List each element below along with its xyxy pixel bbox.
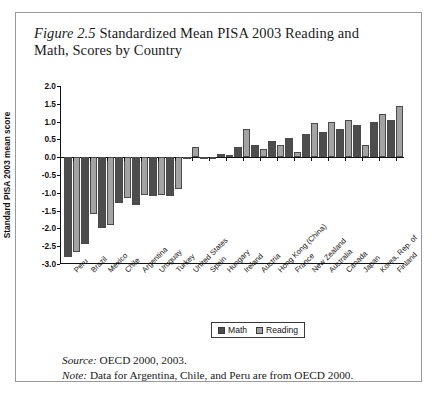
bar-group <box>166 86 183 264</box>
bar-group <box>115 86 132 264</box>
bar-reading <box>158 157 166 194</box>
x-tick-mark <box>345 157 346 161</box>
y-tick-label: -3.0 <box>42 259 56 269</box>
y-tick-label: -1.5 <box>42 206 56 216</box>
legend-item-math: Math <box>218 325 247 335</box>
bar-reading <box>141 157 149 194</box>
bar-math <box>336 129 344 157</box>
bar-math <box>81 157 89 244</box>
bar-group <box>132 86 149 264</box>
bar-reading <box>362 145 370 157</box>
y-tick-mark <box>57 139 61 140</box>
y-tick-mark <box>57 157 61 158</box>
y-tick-label: -1.0 <box>42 188 56 198</box>
x-tick-mark <box>379 157 380 161</box>
y-tick-label: 0.0 <box>44 152 56 162</box>
x-tick-mark <box>294 157 295 161</box>
y-tick-label: -0.5 <box>42 170 56 180</box>
bar-math <box>132 157 140 205</box>
figure-number: Figure 2.5 <box>34 25 96 41</box>
x-tick-mark <box>277 157 278 161</box>
chart-plot-area: 2.01.51.00.50.0-0.5-1.0-1.5-2.0-2.5-3.0 <box>60 86 404 264</box>
bar-group <box>319 86 336 264</box>
bar-reading <box>294 152 302 157</box>
bar-reading <box>277 145 285 157</box>
bar-math <box>353 125 361 157</box>
y-tick-mark <box>57 228 61 229</box>
x-tick-mark <box>226 157 227 161</box>
bar-group <box>64 86 81 264</box>
note-line: Note: Data for Argentina, Chile, and Per… <box>62 368 353 383</box>
bar-math <box>370 122 378 158</box>
bar-math <box>302 134 310 157</box>
y-tick-mark <box>57 211 61 212</box>
x-tick-mark <box>243 157 244 161</box>
chart-legend: Math Reading <box>211 322 305 338</box>
y-tick-label: 2.0 <box>44 81 56 91</box>
bar-group <box>370 86 387 264</box>
legend-swatch-math <box>218 327 225 334</box>
x-tick-mark <box>311 157 312 161</box>
bar-group <box>353 86 370 264</box>
y-tick-label: 1.0 <box>44 117 56 127</box>
y-axis-title: Standard PISA 2003 mean score <box>0 86 14 264</box>
x-tick-mark <box>209 157 210 161</box>
note-label: Note: <box>62 369 87 381</box>
y-tick-mark <box>57 193 61 194</box>
bar-math <box>217 154 225 158</box>
bar-reading <box>73 157 81 251</box>
y-tick-mark <box>57 175 61 176</box>
bar-group <box>234 86 251 264</box>
x-tick-mark <box>362 157 363 161</box>
x-tick-mark <box>158 157 159 161</box>
bar-group <box>149 86 166 264</box>
bar-reading <box>209 157 217 159</box>
x-tick-mark <box>90 157 91 161</box>
bar-group <box>387 86 404 264</box>
bar-group <box>183 86 200 264</box>
figure-title: Figure 2.5 Standardized Mean PISA 2003 R… <box>34 25 384 59</box>
y-axis-line <box>60 86 61 264</box>
bar-group <box>251 86 268 264</box>
bar-reading <box>107 157 115 225</box>
y-tick-mark <box>57 86 61 87</box>
y-tick-label: -2.0 <box>42 223 56 233</box>
x-tick-mark <box>124 157 125 161</box>
bar-math <box>166 157 174 196</box>
bar-math <box>319 132 327 157</box>
bar-math <box>200 157 208 159</box>
bar-math <box>115 157 123 203</box>
bar-math <box>387 120 395 157</box>
x-tick-mark <box>73 157 74 161</box>
bar-math <box>234 147 242 158</box>
bar-reading <box>243 129 251 157</box>
x-tick-mark <box>107 157 108 161</box>
legend-label-reading: Reading <box>266 325 298 335</box>
y-tick-mark <box>57 264 61 265</box>
x-tick-mark <box>175 157 176 161</box>
bar-reading <box>260 149 268 157</box>
bar-reading <box>379 114 387 157</box>
bar-group <box>200 86 217 264</box>
bar-reading <box>175 157 183 189</box>
legend-item-reading: Reading <box>256 325 298 335</box>
source-line: Source: OECD 2000, 2003. <box>62 353 353 368</box>
source-label: Source: <box>62 354 97 366</box>
y-tick-mark <box>57 246 61 247</box>
x-tick-mark <box>328 157 329 161</box>
figure-notes: Source: OECD 2000, 2003. Note: Data for … <box>62 353 353 382</box>
bar-reading <box>124 157 132 198</box>
bar-reading <box>396 106 404 158</box>
note-text: Data for Argentina, Chile, and Peru are … <box>87 369 353 381</box>
x-tick-mark <box>396 157 397 161</box>
y-tick-label: 0.5 <box>44 134 56 144</box>
bar-math <box>98 157 106 228</box>
legend-label-math: Math <box>228 325 247 335</box>
y-tick-mark <box>57 104 61 105</box>
bar-reading <box>192 147 200 158</box>
bar-math <box>149 157 157 196</box>
bar-group <box>336 86 353 264</box>
bar-group <box>81 86 98 264</box>
x-tick-mark <box>141 157 142 161</box>
bar-group <box>98 86 115 264</box>
